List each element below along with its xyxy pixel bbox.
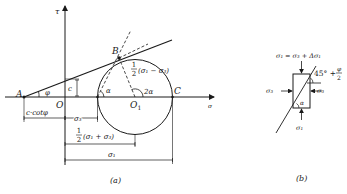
alpha-arc: [101, 91, 105, 97]
angle-arc-b: [311, 78, 314, 83]
top-load-label: σ₁ = σ₃ + Δσ₁: [276, 52, 321, 60]
point-b: [117, 56, 121, 60]
svg-text:45° +: 45° +: [314, 69, 336, 78]
svg-text:(σ₁ + σ₃): (σ₁ + σ₃): [83, 133, 114, 141]
bottom-load-label: σ₁: [296, 124, 303, 132]
svg-text:φ: φ: [337, 65, 342, 73]
svg-text:2: 2: [132, 70, 136, 78]
sigma3-dim-label: σ₃: [74, 115, 82, 123]
half-sum-label: 1 2 (σ₁ + σ₃): [76, 127, 114, 144]
caption-b: (b): [296, 174, 307, 183]
svg-text:2: 2: [337, 74, 341, 81]
phi-arc: [39, 92, 40, 98]
tau-axis-label: τ: [55, 7, 60, 16]
label-c-point: C: [174, 86, 181, 96]
failure-angle-label: 45° + φ 2: [314, 65, 342, 81]
left-load-label: σ₃: [266, 87, 273, 95]
alpha-label-b: α: [300, 99, 304, 106]
radius-label: 1 2 (σ₁ − σ₃): [131, 61, 169, 78]
cohesion-label: c: [68, 85, 72, 93]
label-o1: O1: [130, 100, 141, 111]
alpha-arc-b: [297, 104, 300, 109]
failure-plane-line: [98, 30, 132, 97]
soil-element-diagram: α σ₁ = σ₃ + Δσ₁ σ₁ σ₃ σ₃ 45° + φ 2 (b): [266, 52, 342, 183]
svg-text:2: 2: [77, 136, 81, 144]
two-alpha-label: 2α: [143, 88, 153, 96]
mohr-coulomb-figure: τ σ A B O O1 C φ α 2α 1 2: [0, 0, 347, 194]
alpha-label: α: [106, 87, 111, 95]
c-cot-phi-label: c·cotφ: [26, 109, 48, 117]
caption-a: (a): [110, 176, 121, 185]
label-a: A: [15, 89, 23, 99]
label-b: B: [111, 46, 119, 56]
two-alpha-arc: [132, 89, 144, 97]
svg-text:1: 1: [132, 61, 136, 69]
svg-text:1: 1: [77, 127, 81, 135]
phi-label: φ: [45, 89, 50, 97]
svg-text:(σ₁ − σ₃): (σ₁ − σ₃): [138, 67, 169, 75]
label-o: O: [56, 100, 64, 110]
sigma-axis-label: σ: [208, 102, 213, 109]
mohr-circle-diagram: τ σ A B O O1 C φ α 2α 1 2: [5, 6, 214, 185]
sigma1-dim-label: σ₁: [108, 151, 116, 159]
right-load-label: σ₃: [317, 87, 324, 95]
